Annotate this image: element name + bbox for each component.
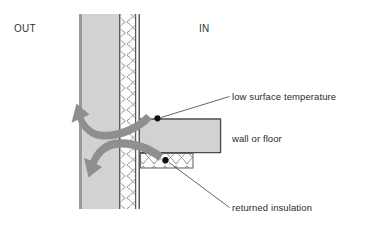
- wall-assembly: [79, 14, 140, 209]
- diagram-canvas: OUT IN low surface temperature wall or f…: [0, 0, 370, 234]
- construction-detail-drawing: [0, 0, 370, 234]
- marker-dot-returned-insulation: [162, 157, 168, 163]
- leader-line-returned-insulation: [169, 163, 230, 208]
- wall-cavity-divider-line: [119, 14, 121, 209]
- marker-dot-low-surface-temperature: [154, 115, 160, 121]
- wall-inner-lining-line-outer: [135, 14, 137, 209]
- label-returned-insulation: returned insulation: [232, 203, 312, 213]
- label-inside: IN: [199, 24, 210, 34]
- wall-masonry-layer: [82, 14, 119, 209]
- wall-inner-lining-gap: [137, 14, 139, 209]
- leader-line-low-surface-temperature: [161, 97, 230, 118]
- label-wall-or-floor: wall or floor: [232, 134, 282, 144]
- label-outside: OUT: [14, 24, 36, 34]
- wall-inner-face-line: [139, 14, 141, 209]
- wall-insulation-layer: [121, 14, 135, 209]
- label-low-surface-temperature: low surface temperature: [232, 92, 336, 102]
